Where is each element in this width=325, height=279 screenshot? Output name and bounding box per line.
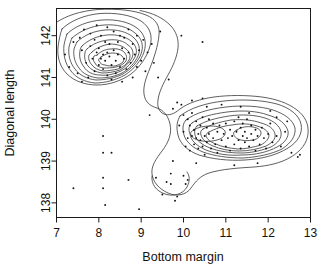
data-point [102, 54, 104, 56]
data-point [178, 125, 180, 127]
data-point [219, 125, 221, 127]
data-point [250, 133, 252, 135]
data-point [174, 200, 176, 202]
data-point [106, 74, 108, 76]
data-point [233, 120, 235, 122]
y-tick-label: 138 [39, 193, 53, 213]
data-point [153, 62, 155, 64]
data-point [214, 143, 216, 145]
data-point [151, 43, 153, 45]
data-point [240, 106, 242, 108]
data-point [102, 68, 104, 70]
data-point [121, 47, 123, 49]
y-tick-label: 141 [39, 67, 53, 87]
data-point [138, 208, 140, 210]
data-point [83, 28, 85, 30]
data-point [96, 24, 98, 26]
data-point [113, 31, 115, 33]
data-point [189, 150, 191, 152]
data-point [117, 41, 119, 43]
x-tick-label: 8 [95, 226, 102, 240]
data-point [142, 39, 144, 41]
data-point [98, 64, 100, 66]
data-point [170, 173, 172, 175]
data-point [191, 135, 193, 137]
y-tick-label: 139 [39, 151, 53, 171]
data-point [191, 100, 193, 102]
data-point [202, 145, 204, 147]
data-point [265, 148, 267, 150]
data-point [96, 51, 98, 53]
data-point [202, 97, 204, 99]
data-point [233, 164, 235, 166]
data-point [183, 175, 185, 177]
data-point [72, 41, 74, 43]
data-point [197, 133, 199, 135]
data-point [216, 152, 218, 154]
data-point [276, 135, 278, 137]
data-point [187, 137, 189, 139]
data-point [72, 187, 74, 189]
data-point [252, 139, 254, 141]
data-point [221, 104, 223, 106]
data-point [259, 143, 261, 145]
data-point [123, 58, 125, 60]
data-point [271, 141, 273, 143]
data-point [187, 179, 189, 181]
data-point [284, 131, 286, 133]
data-point [291, 152, 293, 154]
data-point [255, 129, 257, 131]
data-point [111, 152, 113, 154]
x-tick-label: 10 [177, 226, 191, 240]
x-tick-label: 7 [53, 226, 60, 240]
contour-group [57, 9, 308, 195]
data-point [102, 177, 104, 179]
data-point [168, 79, 170, 81]
data-point [157, 77, 159, 79]
data-point [242, 135, 244, 137]
data-point [206, 127, 208, 129]
data-point [104, 41, 106, 43]
data-point [100, 35, 102, 37]
data-point [242, 123, 244, 125]
data-point [250, 125, 252, 127]
y-axis-ticks: 138139140141142 [39, 25, 57, 213]
data-point [130, 62, 132, 64]
data-point [119, 35, 121, 37]
data-point [121, 81, 123, 83]
data-point [193, 143, 195, 145]
data-point [276, 116, 278, 118]
x-tick-label: 13 [304, 226, 318, 240]
data-point [202, 116, 204, 118]
data-point [77, 72, 79, 74]
data-point [176, 102, 178, 104]
data-point [231, 135, 233, 137]
x-axis-ticks: 78910111213 [53, 218, 317, 240]
data-point [208, 133, 210, 135]
data-point [102, 187, 104, 189]
data-point [98, 47, 100, 49]
scatter-points-layer [64, 24, 301, 210]
data-point [257, 135, 259, 137]
data-point [92, 58, 94, 60]
data-point [299, 154, 301, 156]
data-point [199, 139, 201, 141]
data-point [206, 141, 208, 143]
data-point [195, 120, 197, 122]
data-point [128, 51, 130, 53]
data-point [104, 60, 106, 62]
data-point [257, 162, 259, 164]
data-point [227, 137, 229, 139]
data-point [138, 49, 140, 51]
data-point [147, 51, 149, 53]
data-point [108, 43, 110, 45]
data-point [136, 35, 138, 37]
data-point [144, 70, 146, 72]
data-point [115, 72, 117, 74]
data-point [185, 145, 187, 147]
data-point [229, 129, 231, 131]
data-point [193, 129, 195, 131]
data-point [111, 79, 113, 81]
data-point [89, 33, 91, 35]
contour-ul-ring-2 [58, 13, 151, 85]
